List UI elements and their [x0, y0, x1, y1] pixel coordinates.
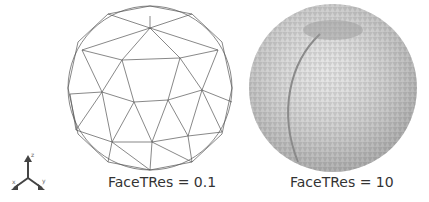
fine-caption: FaceTRes = 10 — [290, 174, 394, 190]
svg-text:z: z — [31, 151, 34, 158]
fine-sphere-wireframe — [240, 2, 426, 172]
coarse-caption: FaceTRes = 0.1 — [108, 174, 216, 190]
coarse-sphere-wireframe — [62, 2, 238, 172]
svg-text:x: x — [12, 178, 16, 185]
sphere-dense-icon — [240, 2, 426, 172]
axis-triad-icon: z x y — [6, 150, 50, 194]
sphere-coarse-icon — [62, 2, 238, 172]
svg-text:y: y — [42, 177, 46, 185]
